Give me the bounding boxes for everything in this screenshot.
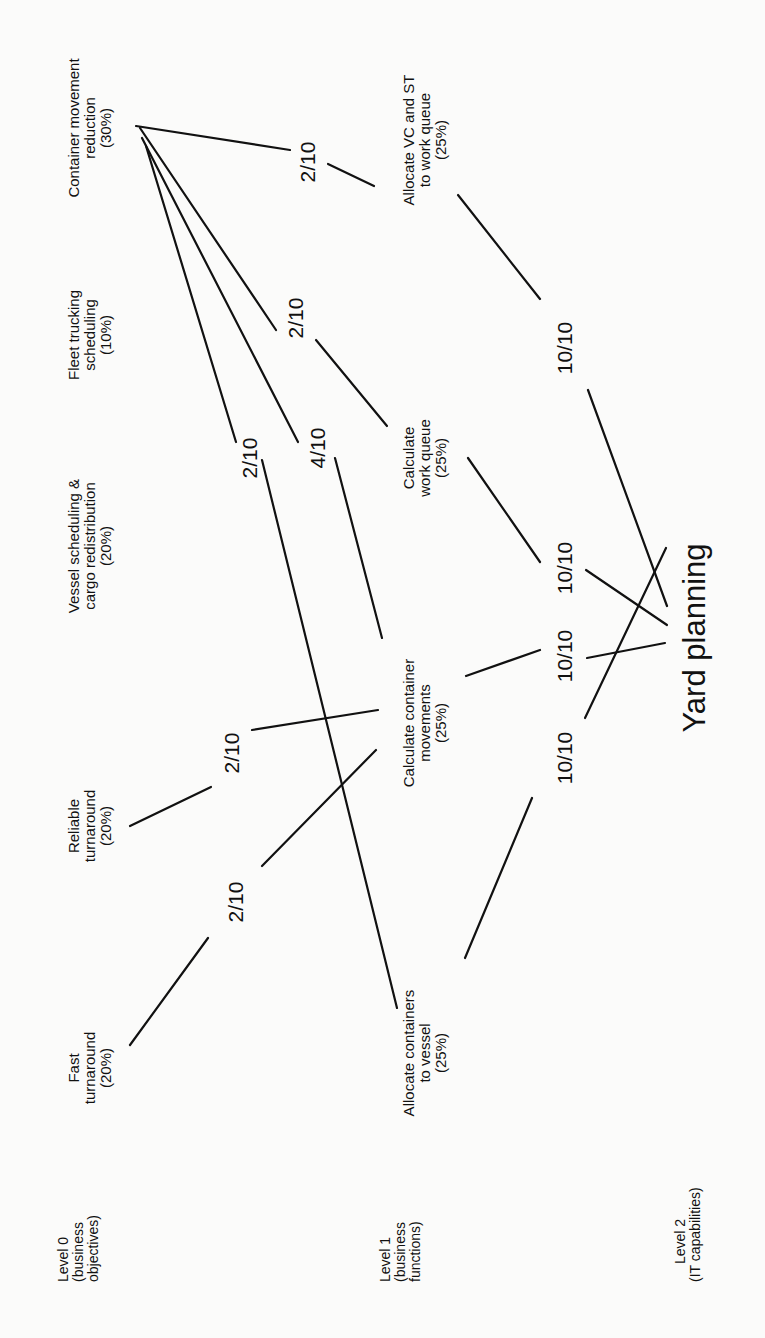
node-line2: work queue: [417, 419, 433, 497]
weight-avs-yard: 10/10: [553, 322, 577, 375]
level-1-line1: Level 1: [378, 1221, 393, 1282]
node-percent: (25%): [433, 990, 449, 1117]
node-line1: Calculate: [401, 419, 417, 497]
level-1-label: Level 1 (business functions): [378, 1221, 423, 1282]
edge-cwq-yard-a: [468, 458, 540, 562]
node-line1: Calculate container: [401, 659, 417, 787]
edge-cmr-ccm-b: [335, 458, 382, 638]
node-line2: to work queue: [417, 75, 433, 206]
node-percent: (25%): [433, 75, 449, 206]
weight-fast-ccm: 2/10: [224, 882, 248, 923]
node-percent: (25%): [433, 659, 449, 787]
weight-rel-ccm: 2/10: [220, 733, 244, 774]
node-percent: (20%): [98, 1032, 114, 1105]
node-vessel-scheduling: Vessel scheduling & cargo redistribution…: [66, 479, 114, 613]
node-fast-turnaround: Fast turnaround (20%): [66, 1032, 114, 1105]
weight-cmr-ccm: 4/10: [306, 428, 330, 469]
edge-ccm-yard-a: [466, 650, 540, 676]
node-line2: reduction: [82, 58, 98, 197]
level-0-line1: Level 0: [56, 1215, 71, 1282]
weight-cmr-cwq: 2/10: [284, 298, 308, 339]
node-line1: Container movement: [66, 58, 82, 197]
node-line2: movements: [417, 659, 433, 787]
edge-acv-yard-a: [465, 798, 532, 958]
node-percent: (20%): [98, 479, 114, 613]
node-calculate-work-queue: Calculate work queue (25%): [401, 419, 449, 497]
node-reliable-turnaround: Reliable turnaround (20%): [66, 790, 114, 863]
edge-rel-ccm-b: [252, 710, 378, 730]
node-line1: Reliable: [66, 790, 82, 863]
weight-cwq-yard: 10/10: [553, 542, 577, 595]
node-line2: turnaround: [82, 790, 98, 863]
node-line2: turnaround: [82, 1032, 98, 1105]
level-0-line2: (business: [71, 1215, 86, 1282]
edge-cmr-cwq-a: [140, 128, 276, 330]
edge-cwq-yard-b: [586, 570, 667, 625]
edge-fast-ccm-b: [262, 750, 376, 866]
node-yard-planning: Yard planning: [677, 543, 713, 732]
edge-rel-ccm-a: [130, 787, 211, 826]
node-percent: (25%): [433, 419, 449, 497]
node-line1: Allocate containers: [401, 990, 417, 1117]
node-line1: Fast: [66, 1032, 82, 1105]
level-1-line2: (business: [393, 1221, 408, 1282]
node-percent: (20%): [98, 790, 114, 863]
node-line2: to vessel: [417, 990, 433, 1117]
weight-ccm-yard: 10/10: [553, 630, 577, 683]
node-allocate-vc-st: Allocate VC and ST to work queue (25%): [401, 75, 449, 206]
edge-cmr-avs-b: [328, 164, 374, 186]
connector-lines: [0, 0, 765, 1338]
edge-cmr-acv-b: [262, 460, 397, 1008]
edge-avs-yard-b: [588, 390, 667, 606]
node-line2: scheduling: [82, 290, 98, 380]
node-line2: cargo redistribution: [82, 479, 98, 613]
edge-cmr-ccm-a: [142, 138, 298, 442]
node-line1: Vessel scheduling &: [66, 479, 82, 613]
node-fleet-trucking: Fleet trucking scheduling (10%): [66, 290, 114, 380]
node-calculate-container-movements: Calculate container movements (25%): [401, 659, 449, 787]
edge-avs-yard-a: [458, 195, 540, 299]
node-line1: Fleet trucking: [66, 290, 82, 380]
level-1-line3: functions): [408, 1221, 423, 1282]
node-allocate-containers-to-vessel: Allocate containers to vessel (25%): [401, 990, 449, 1117]
level-2-line2: (IT capabilities): [688, 1187, 703, 1282]
edge-fast-ccm-a: [130, 938, 208, 1045]
weight-acv-yard: 10/10: [553, 732, 577, 785]
level-2-line1: Level 2: [673, 1187, 688, 1282]
level-0-label: Level 0 (business objectives): [56, 1215, 101, 1282]
weight-cmr-acv: 2/10: [238, 438, 262, 479]
node-line1: Allocate VC and ST: [401, 75, 417, 206]
edge-cmr-avs-a: [136, 126, 290, 150]
edge-ccm-yard-b: [587, 643, 665, 658]
level-2-label: Level 2 (IT capabilities): [673, 1187, 703, 1282]
node-container-movement-reduction: Container movement reduction (30%): [66, 58, 114, 197]
weight-cmr-avs: 2/10: [296, 142, 320, 183]
level-0-line3: objectives): [86, 1215, 101, 1282]
node-percent: (30%): [98, 58, 114, 197]
node-percent: (10%): [98, 290, 114, 380]
edge-cmr-cwq-b: [316, 340, 387, 426]
edge-acv-yard-b: [585, 548, 666, 718]
hierarchy-diagram: Level 0 (business objectives) Level 1 (b…: [0, 0, 765, 1338]
